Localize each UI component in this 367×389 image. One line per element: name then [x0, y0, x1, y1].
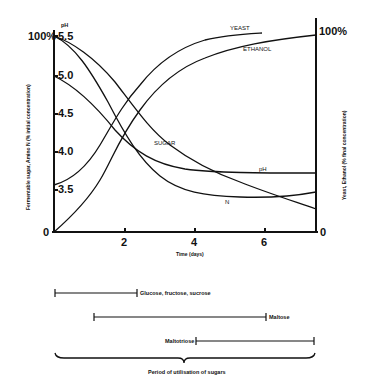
x-tick-2: 2 [121, 236, 127, 248]
ph-label: pH [259, 166, 267, 172]
ph-unit-label: pH [61, 22, 68, 28]
left-top-label: 100% [28, 30, 56, 42]
x-axis-title: Time (days) [176, 251, 204, 257]
maltotriose-period-bar [196, 337, 314, 345]
yeast-label: YEAST [230, 25, 250, 31]
left-axis-title: Fermentable sugar, Amino N (% initial co… [25, 84, 31, 210]
fermentation-chart: pH 100% 5.5 5.0 4.5 4.0 3.5 0 100% 0 2 4… [0, 0, 367, 389]
ph-tick-4.0: 4.0 [58, 145, 73, 157]
maltose-period-bar [94, 313, 266, 321]
left-zero-label: 0 [43, 226, 49, 238]
ph-tick-4.5: 4.5 [58, 107, 73, 119]
maltose-period-label: Maltose [269, 314, 289, 320]
right-axis-title: Yeast, Ethanol (% final concentration) [341, 110, 347, 200]
ph-curve [54, 76, 316, 173]
right-zero-label: 0 [320, 226, 326, 238]
n-label: N [225, 199, 229, 205]
brace-label: Period of utilisation of sugars [148, 369, 226, 375]
sugar-curve [54, 36, 316, 209]
ph-tick-3.5: 3.5 [58, 183, 73, 195]
glucose-period-label: Glucose, fructose, sucrose [140, 290, 211, 296]
right-top-label: 100% [319, 25, 347, 37]
ethanol-label: ETHANOL [243, 46, 272, 52]
ethanol-curve [54, 35, 316, 232]
glucose-period-bar [55, 289, 137, 297]
x-tick-6: 6 [261, 236, 267, 248]
x-tick-4: 4 [191, 236, 198, 248]
maltotriose-period-label: Maltotriose [165, 338, 194, 344]
sugar-label: SUGAR [154, 140, 176, 146]
utilisation-brace [55, 353, 315, 363]
